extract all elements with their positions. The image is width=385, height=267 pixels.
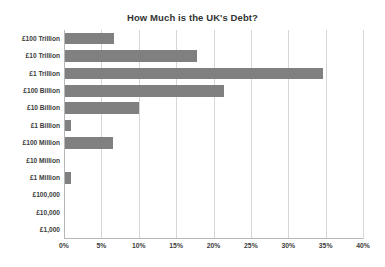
x-axis-label: 30%	[281, 242, 295, 249]
y-axis-label: £100 Billion	[0, 87, 60, 95]
y-axis-label: £10 Million	[0, 157, 60, 165]
x-axis-label: 15%	[169, 242, 183, 249]
y-axis-label: £1 Trillion	[0, 70, 60, 78]
bar-chart: How Much is the UK's Debt? £100 Trillion…	[0, 0, 385, 267]
y-axis-category-labels: £100 Trillion£10 Trillion£1 Trillion£100…	[0, 30, 60, 239]
chart-title: How Much is the UK's Debt?	[0, 12, 385, 23]
x-axis-label: 35%	[319, 242, 333, 249]
y-axis-label: £100 Million	[0, 139, 60, 147]
x-axis-label: 20%	[207, 242, 221, 249]
x-axis-label: 0%	[59, 242, 69, 249]
y-axis-label: £10 Billion	[0, 104, 60, 112]
axis-frame	[64, 30, 363, 239]
x-axis-label: 5%	[96, 242, 106, 249]
y-axis-label: £100 Trillion	[0, 35, 60, 43]
x-axis-label: 40%	[356, 242, 370, 249]
y-axis-label: £100,000	[0, 191, 60, 199]
y-axis-label: £10 Trillion	[0, 52, 60, 60]
x-axis-label: 25%	[244, 242, 258, 249]
x-axis-tick-labels: 0%5%10%15%20%25%30%35%40%	[0, 242, 385, 256]
y-axis-label: £1 Billion	[0, 122, 60, 130]
gridline-40	[363, 30, 364, 239]
y-axis-label: £1,000	[0, 226, 60, 234]
plot-area	[64, 30, 363, 239]
y-axis-label: £1 Million	[0, 174, 60, 182]
y-axis-label: £10,000	[0, 209, 60, 217]
x-axis-label: 10%	[132, 242, 146, 249]
